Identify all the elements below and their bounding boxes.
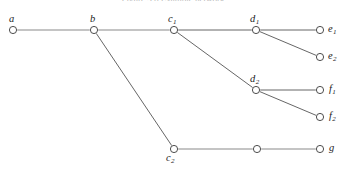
graph-node-e2 bbox=[316, 53, 323, 60]
graph-node-f1 bbox=[316, 86, 323, 93]
node-label-subscript-c2: 2 bbox=[171, 157, 175, 165]
node-label-e2: e2 bbox=[328, 51, 336, 62]
node-label-subscript-f1: 1 bbox=[332, 88, 336, 96]
node-label-c2: c2 bbox=[166, 153, 174, 164]
edge-layer bbox=[17, 30, 316, 149]
graph-node-m bbox=[253, 145, 260, 152]
node-label-subscript-f2: 2 bbox=[332, 115, 336, 123]
node-label-e1: e1 bbox=[328, 24, 336, 35]
node-label-f2: f2 bbox=[329, 111, 336, 122]
node-label-subscript-d2: 2 bbox=[256, 78, 260, 86]
node-label-subscript-e2: 2 bbox=[333, 55, 337, 63]
node-label-subscript-c1: 1 bbox=[173, 18, 177, 26]
node-label-base-d2: d bbox=[250, 73, 255, 84]
node-label-c1: c1 bbox=[168, 14, 176, 25]
node-label-base-d1: d bbox=[250, 13, 255, 24]
graph-node-a bbox=[9, 26, 16, 33]
node-label-f1: f1 bbox=[329, 84, 336, 95]
node-label-subscript-d1: 1 bbox=[256, 18, 260, 26]
network-diagram-figure: Figure 3.6 Example network abc1d1e1e2d2f… bbox=[0, 0, 346, 171]
graph-node-c2 bbox=[170, 145, 177, 152]
node-label-g: g bbox=[329, 143, 334, 154]
node-label-subscript-e1: 1 bbox=[333, 28, 337, 36]
node-label-b: b bbox=[90, 14, 95, 25]
graph-node-b bbox=[90, 26, 97, 33]
node-label-base-a: a bbox=[9, 13, 14, 24]
node-label-base-g: g bbox=[329, 142, 334, 153]
graph-edge-d1-e2 bbox=[260, 32, 316, 56]
graph-node-d2 bbox=[252, 86, 259, 93]
graph-node-g bbox=[316, 145, 323, 152]
graph-edge-d2-f2 bbox=[260, 92, 316, 116]
node-label-base-b: b bbox=[90, 13, 95, 24]
node-label-d1: d1 bbox=[250, 14, 259, 25]
graph-edge-c1-d2 bbox=[177, 32, 252, 87]
node-label-d2: d2 bbox=[250, 74, 259, 85]
graph-node-d1 bbox=[252, 26, 259, 33]
node-layer bbox=[9, 26, 323, 152]
graph-node-c1 bbox=[170, 26, 177, 33]
graph-node-e1 bbox=[316, 26, 323, 33]
graph-edge-b-c2 bbox=[96, 33, 171, 145]
node-label-a: a bbox=[9, 14, 14, 25]
graph-node-f2 bbox=[316, 113, 323, 120]
